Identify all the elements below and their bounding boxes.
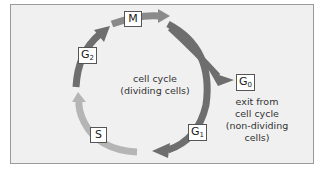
s-arrowhead — [72, 92, 86, 102]
s-arrow — [79, 100, 137, 152]
exit-caption: exit from cell cycle (non-dividing cells… — [222, 96, 292, 144]
g1-arrowhead — [152, 143, 170, 158]
center-caption: cell cycle (dividing cells) — [110, 73, 200, 97]
g0-arrowhead — [210, 72, 234, 86]
g0-arrow — [170, 28, 218, 76]
phase-label-g0: G0 — [236, 74, 255, 91]
phase-label-s: S — [90, 127, 107, 143]
phase-label-g1: G1 — [188, 124, 207, 141]
m-arrowhead — [158, 9, 170, 23]
phase-label-g2: G2 — [78, 47, 97, 64]
phase-label-m: M — [124, 11, 142, 27]
